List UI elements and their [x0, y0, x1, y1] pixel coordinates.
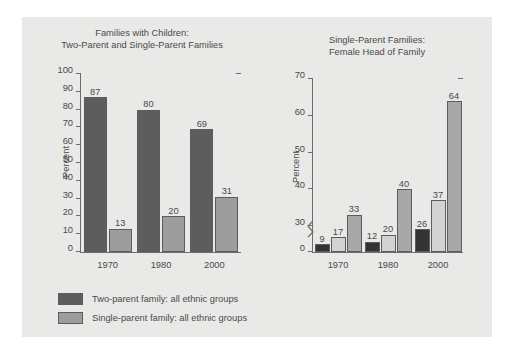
y-tick-label: 50: [295, 144, 305, 154]
legend-label-single-parent: Single-parent family: all ethnic groups: [92, 313, 247, 323]
bar: 20: [381, 235, 396, 252]
y-tick-label: 90: [63, 83, 73, 93]
bar-value-label: 69: [197, 119, 207, 129]
bar: 31: [215, 197, 238, 252]
legend-swatch-single-parent: [58, 312, 83, 324]
bar-group: 1220401980: [363, 79, 413, 252]
bar-value-label: 12: [367, 231, 377, 241]
bar: 87: [84, 97, 107, 252]
y-tick-label: 0: [300, 243, 305, 253]
x-category-label: 2000: [204, 260, 225, 270]
legend-swatch-two-parent: [58, 293, 83, 305]
bar-value-label: 37: [433, 190, 443, 200]
bar-value-label: 26: [417, 219, 427, 229]
y-tick-label: 40: [63, 172, 73, 182]
legend-item: Single-parent family: all ethnic groups: [58, 308, 247, 327]
plot-area-right: 03040506070 9173319701220401980263764200…: [312, 79, 463, 253]
x-category-label: 1980: [151, 260, 172, 270]
x-category-label: 2000: [428, 260, 449, 270]
bar-value-label: 20: [168, 206, 178, 216]
bar: 17: [331, 237, 346, 252]
x-category-label: 1980: [378, 260, 399, 270]
bar-value-label: 20: [383, 224, 393, 234]
chart-single-parent-female-head: Single-Parent Families: Female Head of F…: [262, 17, 492, 337]
bar-value-label: 87: [90, 87, 100, 97]
legend-label-two-parent: Two-parent family: all ethnic groups: [92, 294, 238, 304]
y-tick-label: 70: [63, 118, 73, 128]
bar-value-label: 13: [115, 218, 125, 228]
bar: 80: [137, 110, 160, 252]
bar-group: 80201980: [134, 74, 187, 252]
bar: 20: [162, 216, 185, 252]
y-tick-label: 30: [63, 190, 73, 200]
y-tick-label: 40: [295, 180, 305, 190]
y-tick-label: 60: [63, 136, 73, 146]
bar: 40: [397, 189, 412, 252]
bar: 13: [109, 229, 132, 252]
bar-value-label: 31: [222, 186, 232, 196]
bar-group: 87131970: [81, 74, 134, 252]
bar: 69: [190, 129, 213, 252]
chart-title-right: Single-Parent Families: Female Head of F…: [262, 35, 492, 58]
x-category-label: 1970: [97, 260, 118, 270]
legend-item: Two-parent family: all ethnic groups: [58, 289, 247, 308]
bar-value-label: 33: [349, 204, 359, 214]
bar: 26: [415, 229, 430, 252]
bar-value-label: 17: [333, 227, 343, 237]
y-tick-label: 80: [63, 101, 73, 111]
axis-break-icon: [307, 220, 321, 238]
bar: 64: [447, 101, 462, 252]
y-tick-label: 70: [295, 70, 305, 80]
y-tick-label: 50: [63, 154, 73, 164]
y-tick-label: 10: [63, 225, 73, 235]
chart-families-with-children: Families with Children: Two-Parent and S…: [22, 17, 262, 337]
y-tick-label: 20: [63, 207, 73, 217]
bar-group: 2637642000: [413, 79, 463, 252]
x-category-label: 1970: [328, 260, 349, 270]
bar: 12: [365, 242, 380, 252]
y-tick-label: 100: [57, 65, 73, 75]
figure-panel: Families with Children: Two-Parent and S…: [22, 17, 492, 337]
chart-title-left: Families with Children: Two-Parent and S…: [22, 28, 262, 51]
y-tick-label: 60: [295, 107, 305, 117]
legend-left: Two-parent family: all ethnic groups Sin…: [58, 289, 247, 327]
bar-value-label: 64: [449, 91, 459, 101]
plot-area-left: 0102030405060708090100 87131970802019806…: [80, 74, 241, 253]
bar-group: 69312000: [188, 74, 241, 252]
bar: 33: [347, 215, 362, 252]
y-tick-label: 30: [295, 217, 305, 227]
bar: 37: [431, 200, 446, 252]
bar: 9: [315, 244, 330, 252]
y-tick-label: 0: [68, 243, 73, 253]
bar-value-label: 40: [399, 179, 409, 189]
bar-value-label: 80: [143, 99, 153, 109]
